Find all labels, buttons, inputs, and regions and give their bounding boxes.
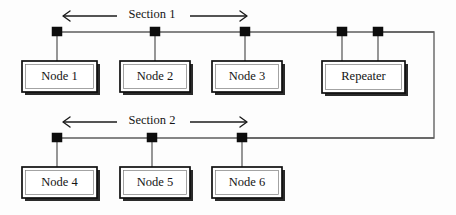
node-3-box[interactable]: Node 3 [212,61,285,95]
node-1-box[interactable]: Node 1 [22,61,100,95]
node-6-box[interactable]: Node 6 [212,167,285,201]
node-2-label: Node 2 [137,69,173,83]
tap-node-3-icon [240,27,250,36]
node-5-label: Node 5 [137,175,173,189]
section-1-group: Section 1 [52,7,434,61]
tap-node-6-icon [237,133,247,142]
node-5-box[interactable]: Node 5 [120,167,193,201]
tap-node-1-icon [52,27,62,36]
node-2-box[interactable]: Node 2 [120,61,193,95]
tap-node-5-icon [147,133,157,142]
section-2-group: Section 2 [52,113,434,167]
network-diagram: Section 1 Node 1 N [0,0,456,215]
tap-node-4-icon [52,133,62,142]
node-4-box[interactable]: Node 4 [22,167,100,201]
node-4-label: Node 4 [41,175,78,189]
tap-repeater-left-icon [337,27,347,36]
diagram-canvas: Section 1 Node 1 N [0,0,456,215]
node-6-label: Node 6 [229,175,265,189]
node-1-label: Node 1 [41,69,77,83]
tap-repeater-right-icon [373,27,383,36]
repeater-label: Repeater [341,69,386,83]
node-3-label: Node 3 [229,69,265,83]
tap-node-2-icon [150,27,160,36]
section-2-label: Section 2 [129,113,176,127]
repeater-box[interactable]: Repeater [322,61,408,96]
section-1-label: Section 1 [129,7,176,21]
